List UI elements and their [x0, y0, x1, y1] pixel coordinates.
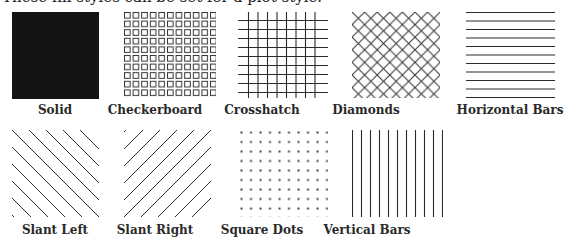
- intro-text: These fill styles can be set for a plot …: [2, 0, 322, 6]
- square-dots-fill-icon: [240, 131, 328, 217]
- fill-label-crosshatch: Crosshatch: [202, 103, 322, 117]
- slant-left-fill-icon: [12, 130, 99, 217]
- fill-label-horizontal-bars: Horizontal Bars: [450, 103, 566, 117]
- fill-label-square-dots: Square Dots: [202, 223, 322, 237]
- fill-label-slant-right: Slant Right: [95, 223, 215, 237]
- slant-right-fill-icon: [124, 130, 211, 217]
- crosshatch-fill-icon: [238, 12, 328, 98]
- horizontal-bars-fill-icon: [466, 12, 555, 99]
- fill-label-vertical-bars: Vertical Bars: [307, 223, 427, 237]
- solid-fill-icon: [12, 12, 100, 99]
- vertical-bars-fill-icon: [352, 130, 443, 217]
- diamonds-fill-icon: [352, 12, 440, 98]
- fill-label-diamonds: Diamonds: [306, 103, 426, 117]
- fill-label-checkerboard: Checkerboard: [95, 103, 215, 117]
- checkerboard-fill-icon: [124, 12, 216, 98]
